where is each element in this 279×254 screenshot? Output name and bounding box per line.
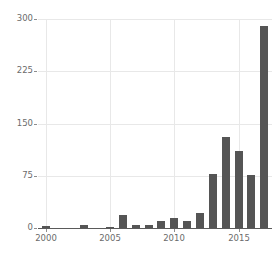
y-tick-mark [34,176,37,177]
x-tick-mark [110,229,111,232]
x-tick-label: 2000 [35,233,57,243]
y-tick-mark [34,71,37,72]
gridline-vertical [174,19,175,228]
bar-chart: 075150225300 2000200520102015 [0,0,279,254]
bar-2011 [183,221,191,228]
gridline-vertical [46,19,47,228]
gridline-horizontal [38,124,272,125]
x-tick-mark [239,229,240,232]
x-axis-line [38,228,272,229]
bar-2012 [196,213,204,228]
y-tick-label: 300 [0,14,33,23]
y-tick-mark [34,228,37,229]
bar-2016 [247,175,255,228]
plot-area [38,19,272,228]
bar-2010 [170,218,178,228]
x-tick-label: 2010 [163,233,185,243]
x-tick-mark [46,229,47,232]
y-tick-label: 75 [0,171,33,180]
y-tick-mark [34,124,37,125]
bar-2017 [260,26,268,228]
bar-2014 [222,137,230,228]
bar-2013 [209,174,217,228]
bar-2006 [119,215,127,228]
bar-2009 [157,221,165,228]
x-tick-label: 2015 [228,233,250,243]
y-tick-label: 0 [0,223,33,232]
bar-2015 [235,151,243,228]
y-tick-mark [34,19,37,20]
gridline-horizontal [38,19,272,20]
x-tick-mark [174,229,175,232]
gridline-horizontal [38,71,272,72]
x-tick-label: 2005 [99,233,121,243]
y-tick-label: 225 [0,66,33,75]
y-tick-label: 150 [0,119,33,128]
gridline-vertical [110,19,111,228]
